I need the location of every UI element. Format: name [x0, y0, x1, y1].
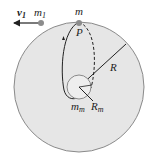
- orbit-diagram: v1 m1 m P R mm Rm: [0, 0, 150, 161]
- label-r: R: [109, 61, 117, 73]
- label-v1: v1: [17, 6, 26, 20]
- particle-m1: [38, 20, 44, 26]
- label-m: m: [75, 5, 83, 17]
- label-p: P: [75, 26, 83, 38]
- label-m1: m1: [34, 6, 46, 20]
